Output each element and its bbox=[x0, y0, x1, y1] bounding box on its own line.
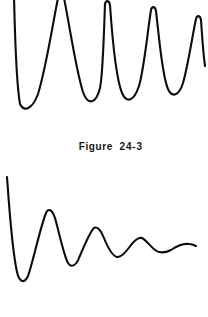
upper-waveform-line bbox=[14, 0, 205, 109]
lower-waveform-chart bbox=[0, 170, 208, 295]
figure-caption-number: 24-3 bbox=[120, 141, 143, 152]
lower-waveform-line bbox=[7, 177, 196, 281]
upper-waveform-chart bbox=[0, 0, 208, 125]
figure-caption: Figure 24-3 bbox=[0, 130, 208, 163]
figure-caption-label: Figure bbox=[79, 141, 113, 152]
figure-sheet: Figure 24-3 bbox=[0, 0, 208, 317]
